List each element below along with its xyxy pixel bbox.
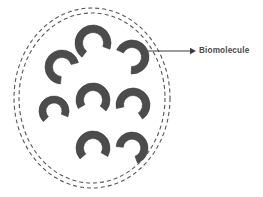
biomolecule-callout-arrow — [148, 48, 196, 54]
biomolecule-group — [39, 25, 150, 163]
diagram-canvas — [0, 0, 263, 197]
biomolecule-particle — [76, 83, 110, 111]
biomolecule-particle — [117, 40, 149, 74]
biomolecule-particle — [116, 88, 150, 119]
biomolecule-particle — [39, 96, 69, 122]
biomolecule-particle — [116, 132, 148, 163]
biomolecule-label: Biomolecule — [199, 44, 249, 57]
arrow-head-icon — [190, 48, 196, 54]
biomolecule-particle — [45, 50, 78, 84]
biomolecule-particle — [75, 25, 111, 57]
biomolecule-particle — [76, 131, 110, 159]
biomolecule-diagram: Biomolecule — [0, 0, 263, 197]
